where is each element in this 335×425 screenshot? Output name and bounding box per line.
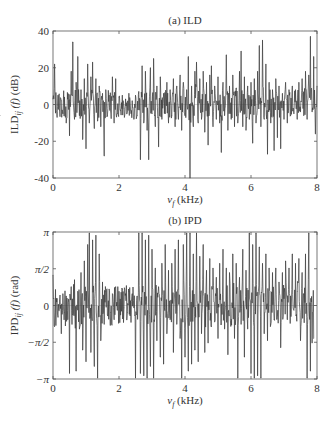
ild-data-point (143, 123, 144, 124)
ild-data-point (129, 93, 130, 94)
ipd-data-point (228, 354, 229, 355)
ild-data-point (140, 159, 141, 160)
ild-data-point (138, 91, 139, 92)
ild-data-point (77, 56, 78, 57)
ild-data-point (195, 71, 196, 72)
ipd-data-point (120, 315, 121, 316)
ild-data-point (236, 88, 237, 89)
ild-data-point (313, 56, 314, 57)
ild-data-point (294, 113, 295, 114)
ipd-data-point (305, 254, 306, 255)
ipd-data-point (162, 263, 163, 264)
ipd-data-point (221, 324, 222, 325)
ild-data-point (87, 64, 88, 65)
ipd-data-point (297, 291, 298, 292)
ild-x-tick-label: 2 (116, 181, 122, 193)
ipd-data-point (308, 233, 309, 234)
ild-data-point (135, 95, 136, 96)
ild-data-point (92, 62, 93, 63)
ild-data-point (198, 123, 199, 124)
ild-data-point (137, 115, 138, 116)
ild-data-point (170, 89, 171, 90)
ipd-data-point (299, 258, 300, 259)
ipd-data-point (148, 235, 149, 236)
ipd-data-point (181, 378, 182, 379)
ild-data-point (183, 82, 184, 83)
ild-data-point (270, 123, 271, 124)
ipd-data-point (269, 268, 270, 269)
ipd-data-point (114, 319, 115, 320)
ild-data-point (82, 139, 83, 140)
ipd-data-point (313, 338, 314, 339)
ipd-data-point (254, 378, 255, 379)
ild-data-point (100, 126, 101, 127)
ipd-data-point (270, 324, 271, 325)
ipd-y-tick-label: 0 (44, 300, 50, 312)
ipd-data-point (242, 249, 243, 250)
ild-data-point (168, 123, 169, 124)
ild-data-point (122, 95, 123, 96)
ild-data-point (239, 71, 240, 72)
ild-data-point (310, 36, 311, 37)
ild-data-point (308, 75, 309, 76)
ipd-data-point (66, 296, 67, 297)
ipd-data-point (300, 340, 301, 341)
ild-data-point (244, 77, 245, 78)
ipd-data-point (262, 263, 263, 264)
ipd-x-tick-label: 4 (182, 382, 188, 394)
ipd-data-point (277, 315, 278, 316)
ild-data-point (86, 148, 87, 149)
ild-data-point (279, 86, 280, 87)
ild-data-point (274, 150, 275, 151)
ipd-data-point (150, 366, 151, 367)
ipd-data-point (232, 254, 233, 255)
ild-data-point (59, 110, 60, 111)
ild-data-point (69, 135, 70, 136)
ild-data-point (229, 86, 230, 87)
ipd-data-point (208, 343, 209, 344)
ild-data-point (134, 119, 135, 120)
ipd-data-point (140, 373, 141, 374)
ild-x-tick-label: 8 (314, 181, 320, 193)
ipd-data-point (214, 322, 215, 323)
ipd-data-point (231, 319, 232, 320)
ipd-data-point (213, 268, 214, 269)
ild-data-point (120, 110, 121, 111)
ipd-data-point (122, 289, 123, 290)
ipd-data-point (127, 312, 128, 313)
ipd-data-point (229, 272, 230, 273)
ild-data-point (54, 64, 55, 65)
ipd-data-point (188, 371, 189, 372)
ipd-data-point (158, 286, 159, 287)
ipd-data-point (190, 233, 191, 234)
ipd-data-point (285, 261, 286, 262)
ipd-data-point (84, 261, 85, 262)
ipd-data-point (77, 291, 78, 292)
ild-data-point (112, 77, 113, 78)
ipd-data-point (186, 233, 187, 234)
ipd-data-point (175, 249, 176, 250)
ipd-data-point (266, 254, 267, 255)
ipd-data-point (157, 340, 158, 341)
ipd-data-point (274, 319, 275, 320)
ild-data-point (211, 66, 212, 67)
ild-data-point (203, 71, 204, 72)
ipd-data-point (252, 244, 253, 245)
ild-data-point (251, 82, 252, 83)
ild-data-point (204, 132, 205, 133)
ipd-data-point (287, 319, 288, 320)
ild-data-point (153, 58, 154, 59)
ild-data-point (163, 93, 164, 94)
ild-data-point (299, 82, 300, 83)
ild-data-point (285, 82, 286, 83)
ipd-data-point (100, 340, 101, 341)
ild-data-point (214, 86, 215, 87)
ild-data-point (188, 56, 189, 57)
ipd-data-point (272, 272, 273, 273)
ipd-data-point (237, 378, 238, 379)
ipd-data-point (180, 338, 181, 339)
ild-data-point (266, 64, 267, 65)
ild-data-point (282, 93, 283, 94)
ipd-data-point (74, 279, 75, 280)
ipd-data-point (138, 233, 139, 234)
